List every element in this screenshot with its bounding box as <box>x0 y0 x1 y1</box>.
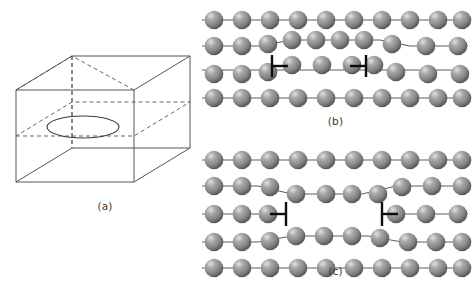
atom-row <box>202 227 471 252</box>
cube-solid-edges <box>16 56 190 182</box>
panel-a-dislocation-loop: (a) <box>0 48 210 248</box>
atom-row-with-dislocations <box>202 55 469 83</box>
atom-row <box>202 11 471 30</box>
panel-c-wide-dislocation-pair: (c) <box>196 144 475 296</box>
panel-a-caption: (a) <box>0 200 210 212</box>
panel-b-narrow-dislocation-pair: (b) <box>196 2 475 142</box>
panel-b-caption: (b) <box>196 115 475 127</box>
atom-row <box>202 151 471 170</box>
atom-row-with-dislocations <box>202 202 468 226</box>
dislocation-loop <box>47 116 119 138</box>
cube-hidden-edges <box>16 56 134 148</box>
slip-plane <box>16 102 190 136</box>
figure-canvas: (a) <box>0 0 475 297</box>
atom-row <box>202 31 468 56</box>
atom-row <box>202 89 471 108</box>
dislocation-marker-left <box>270 202 286 226</box>
atom-row <box>202 177 471 204</box>
cube-diagram <box>0 48 210 248</box>
panel-c-caption: (c) <box>196 265 475 277</box>
